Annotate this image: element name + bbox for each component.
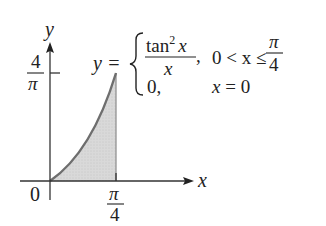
figure-canvas: y x 0 4 π π 4 y = tan2x x , 0 < x ≤ π 4 … [0,0,326,226]
left-brace-icon [130,33,143,95]
x-tick-label-numerator: π [109,183,119,204]
case1-condition-numerator: π [269,31,279,52]
formula-lhs: y = [91,52,120,75]
x-tick-label-denominator: 4 [110,204,120,225]
case2-condition: x = 0 [211,76,250,97]
case1-comma: , [196,45,201,66]
case2-value: 0, [147,76,161,97]
case1-condition: 0 < x ≤ [212,47,266,68]
case1-denominator: x [163,58,173,79]
piecewise-formula: y = tan2x x , 0 < x ≤ π 4 0, x = 0 [91,31,283,97]
x-axis-label: x [197,169,207,191]
y-axis-label: y [43,18,54,41]
y-tick-label-denominator: π [28,73,38,94]
case1-numerator: tan2x [146,33,187,56]
shaded-area [50,73,116,181]
case1-condition-denominator: 4 [269,54,279,75]
y-tick-label-numerator: 4 [31,51,41,72]
origin-label: 0 [30,183,40,205]
